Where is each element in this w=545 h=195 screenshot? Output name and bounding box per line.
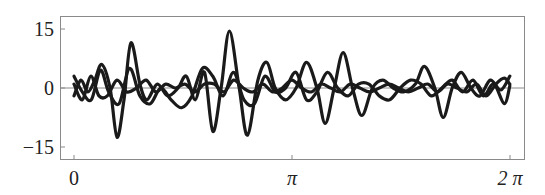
plot-canvas: 150−15 0π2 π (0, 0, 545, 195)
x-tick-label: 2 π (497, 167, 523, 189)
data-series (74, 31, 510, 137)
x-tick-label: 0 (69, 167, 79, 189)
y-tick-label: −15 (23, 136, 54, 158)
y-axis-ticks: 150−15 (23, 18, 65, 158)
x-tick-label: π (287, 167, 298, 189)
y-tick-label: 15 (34, 18, 54, 40)
y-tick-label: 0 (44, 77, 54, 99)
x-axis-ticks: 0π2 π (69, 155, 523, 189)
